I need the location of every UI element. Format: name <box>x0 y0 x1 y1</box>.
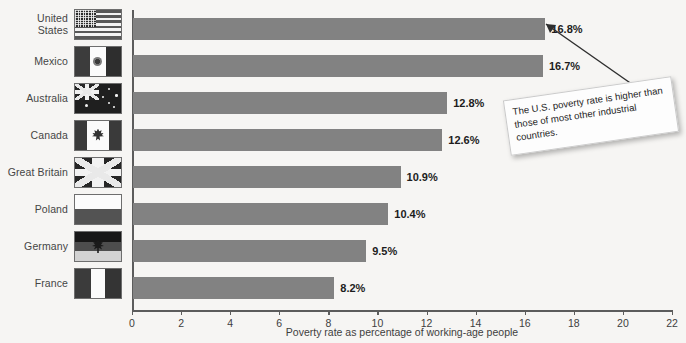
bar-value-united-states: 16.8% <box>551 18 582 40</box>
x-tick <box>476 310 477 315</box>
x-tick <box>279 310 280 315</box>
bar-value-germany: 9.5% <box>372 240 397 262</box>
flag-united-states-icon <box>74 9 122 40</box>
bar-value-canada: 12.6% <box>448 129 479 151</box>
category-label-line1: United <box>0 13 68 25</box>
x-tick <box>181 310 182 315</box>
flag-france-icon <box>74 268 122 299</box>
x-tick <box>328 310 329 315</box>
x-tick <box>132 310 133 315</box>
bar-france <box>133 277 334 299</box>
flag-germany-icon <box>74 231 122 262</box>
category-label-canada: Canada <box>0 130 74 142</box>
bar-australia <box>133 92 447 114</box>
category-row-great-britain: Great Britain <box>0 156 132 189</box>
bar-canada <box>133 129 442 151</box>
bar-great-britain <box>133 166 401 188</box>
category-axis: United States Mexico Australia Canada <box>0 0 132 310</box>
x-tick <box>574 310 575 315</box>
bar-value-mexico: 16.7% <box>549 55 580 77</box>
category-label-mexico: Mexico <box>0 56 74 68</box>
category-label-great-britain: Great Britain <box>0 167 74 179</box>
flag-poland-icon <box>74 194 122 225</box>
flag-australia-icon <box>74 83 122 114</box>
flag-great-britain-icon <box>74 157 122 188</box>
category-row-germany: Germany <box>0 230 132 263</box>
bar-value-france: 8.2% <box>340 277 365 299</box>
flag-canada-icon <box>74 120 122 151</box>
category-label-united-states: United States <box>0 13 74 36</box>
category-row-mexico: Mexico <box>0 45 132 78</box>
poverty-rate-bar-chart: United States Mexico Australia Canada <box>0 0 686 343</box>
x-axis-title: Poverty rate as percentage of working-ag… <box>132 326 672 338</box>
bar-value-poland: 10.4% <box>394 203 425 225</box>
x-tick <box>377 310 378 315</box>
bar-germany <box>133 240 366 262</box>
x-tick <box>672 310 673 315</box>
category-label-poland: Poland <box>0 204 74 216</box>
category-row-australia: Australia <box>0 82 132 115</box>
category-row-poland: Poland <box>0 193 132 226</box>
bar-poland <box>133 203 388 225</box>
x-axis-line <box>132 310 673 312</box>
flag-mexico-icon <box>74 46 122 77</box>
plot-area: 16.8% 16.7% 12.8% 12.6% 10.9% 10.4% 9.5%… <box>132 10 672 310</box>
x-tick <box>623 310 624 315</box>
category-row-canada: Canada <box>0 119 132 152</box>
bar-value-great-britain: 10.9% <box>407 166 438 188</box>
category-row-united-states: United States <box>0 8 132 41</box>
bar-value-australia: 12.8% <box>453 92 484 114</box>
category-label-germany: Germany <box>0 241 74 253</box>
x-tick <box>427 310 428 315</box>
x-tick <box>525 310 526 315</box>
bar-mexico <box>133 55 543 77</box>
category-label-australia: Australia <box>0 93 74 105</box>
bar-united-states <box>133 18 545 40</box>
category-label-france: France <box>0 278 74 290</box>
x-tick <box>230 310 231 315</box>
category-row-france: France <box>0 267 132 300</box>
category-label-line2: States <box>0 25 68 37</box>
